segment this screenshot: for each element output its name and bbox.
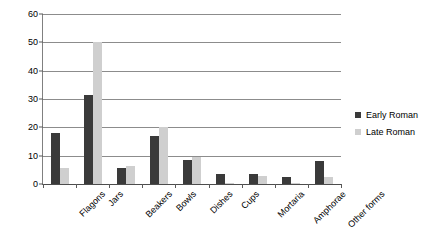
bar-group [142, 14, 175, 184]
bar-late-roman [93, 42, 102, 184]
bar-late-roman [126, 166, 135, 184]
x-axis-labels: FlagonsJarsBeakersBowlsDishesCupsMortari… [42, 189, 340, 247]
y-axis-tick-label: 20 [28, 123, 38, 132]
bar-early-roman [249, 174, 258, 184]
x-axis-tick-mark [242, 184, 243, 188]
bar-group [43, 14, 76, 184]
legend-swatch-icon [355, 112, 361, 118]
legend-label: Late Roman [366, 127, 415, 137]
bar-group [76, 14, 109, 184]
bar-group [308, 14, 341, 184]
bar-early-roman [216, 174, 225, 184]
bar-early-roman [150, 136, 159, 184]
y-axis-tick-label: 60 [28, 10, 38, 19]
x-axis-label: Mortaria [276, 189, 306, 219]
bar-late-roman [60, 168, 69, 184]
x-axis-label: Other forms [346, 189, 387, 230]
bar-group [209, 14, 242, 184]
y-axis-tick-label: 0 [33, 180, 38, 189]
x-axis-tick-mark [308, 184, 309, 188]
x-axis-tick-mark [275, 184, 276, 188]
bar-early-roman [84, 95, 93, 184]
legend-swatch-icon [355, 129, 361, 135]
bar-late-roman [159, 127, 168, 184]
legend-label: Early Roman [366, 110, 418, 120]
x-axis-tick-mark [76, 184, 77, 188]
y-axis-tick-label: 40 [28, 66, 38, 75]
x-axis-label: Flagons [77, 189, 107, 219]
x-axis-label: Bowls [174, 189, 198, 213]
bars-layer [43, 14, 341, 184]
bar-late-roman [291, 183, 300, 184]
x-axis-tick-mark [175, 184, 176, 188]
bar-group [175, 14, 208, 184]
bar-chart: 0102030405060 FlagonsJarsBeakersBowlsDis… [0, 0, 442, 248]
x-axis-label: Beakers [143, 189, 173, 219]
x-axis-tick-mark [43, 184, 44, 188]
x-axis-label: Cups [239, 189, 261, 211]
chart-legend: Early RomanLate Roman [355, 110, 439, 144]
x-axis-tick-mark [341, 184, 342, 188]
y-axis-tick-label: 10 [28, 151, 38, 160]
bar-group [242, 14, 275, 184]
bar-early-roman [282, 177, 291, 184]
x-axis-label: Dishes [208, 189, 235, 216]
bar-late-roman [258, 176, 267, 185]
plot-area: 0102030405060 [42, 14, 341, 185]
y-axis-tick-label: 50 [28, 38, 38, 47]
bar-early-roman [51, 133, 60, 184]
legend-item: Early Roman [355, 110, 439, 120]
bar-early-roman [183, 160, 192, 184]
x-axis-tick-mark [209, 184, 210, 188]
bar-early-roman [117, 168, 126, 184]
x-axis-tick-mark [142, 184, 143, 188]
bar-early-roman [315, 161, 324, 184]
bar-late-roman [192, 157, 201, 184]
bar-group [275, 14, 308, 184]
x-axis-label: Amphorae [311, 189, 347, 225]
y-axis-tick-label: 30 [28, 95, 38, 104]
legend-item: Late Roman [355, 127, 439, 137]
bar-late-roman [324, 177, 333, 184]
x-axis-tick-mark [109, 184, 110, 188]
bar-late-roman [225, 183, 234, 184]
x-axis-label: Jars [106, 189, 125, 208]
bar-group [109, 14, 142, 184]
